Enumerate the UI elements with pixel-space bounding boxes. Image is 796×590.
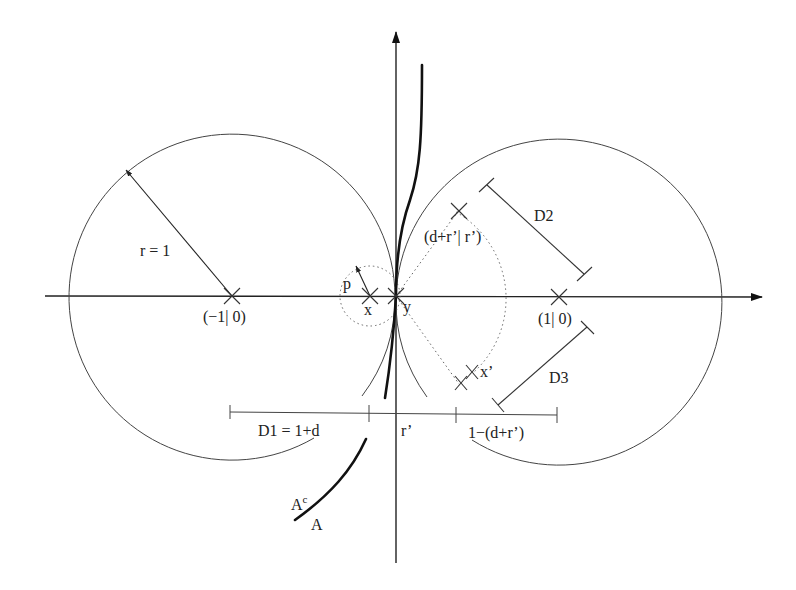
D2-label: D2 [534,207,554,224]
point-upper [451,203,467,219]
point-x-prime-a [466,365,478,379]
radius-arrow [126,170,232,296]
A-complement-label: Ac [291,493,308,513]
D3-label: D3 [549,369,569,386]
D1-label: D1 = 1+d [258,422,320,439]
dotted-line-upper [396,210,459,296]
third-segment-label: 1−(d+r’) [468,424,524,442]
diagram-canvas: r = 1 p (−1| 0) (1| 0) x y (d+r’| r’) x’… [0,0,796,590]
A-label: A [311,516,323,533]
y-label: y [403,298,411,316]
x-prime-label: x’ [480,363,493,380]
left-unit-circle [69,134,395,460]
right-center-label: (1| 0) [538,310,572,328]
p-label: p [343,275,351,293]
segment-D3 [492,321,594,412]
upper-point-label: (d+r’| r’) [424,228,481,246]
x-axis [45,296,762,297]
set-A-boundary-bottom [295,439,366,520]
r-prime-label: r’ [401,422,412,439]
right-unit-circle [396,139,722,465]
left-center-label: (−1| 0) [203,308,246,326]
segment-D2 [479,178,592,281]
p-arrow [356,266,370,296]
x-label: x [364,301,372,318]
set-A-boundary-lower [385,296,396,398]
dimension-line [230,405,557,423]
point-x-prime [455,376,467,390]
radius-label: r = 1 [140,242,170,259]
set-A-boundary-upper [396,65,422,296]
